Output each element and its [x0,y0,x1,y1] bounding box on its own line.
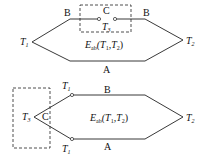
label-t2: T2 [186,112,195,124]
label-t1-bottom: T1 [62,143,71,155]
terminal-top [70,93,73,96]
diagram-1: B B C T3 T1 T2 A Eab(T1,T2) [20,5,195,75]
label-b-left: B [64,7,71,18]
label-c: C [103,5,110,16]
label-a: A [104,141,112,152]
label-t3: T3 [102,21,111,33]
label-a: A [103,64,111,75]
diagram-2: T1 T1 T3 C B A T2 Eab(T1,T2) [13,80,195,155]
terminal-left [97,17,100,20]
emf-label: Eab(T1,T2) [89,112,128,124]
terminal-right [113,17,116,20]
terminal-bottom [70,137,73,140]
label-b: B [104,84,111,95]
thermocouple-diagrams: B B C T3 T1 T2 A Eab(T1,T2) T1 T1 T3 C B… [0,0,204,161]
label-t1: T1 [20,36,29,48]
label-t1-top: T1 [62,80,71,92]
label-b-right: B [143,7,150,18]
emf-label: Eab(T1,T2) [84,39,123,51]
label-t2: T2 [186,35,195,47]
wire-b-right [115,19,183,40]
wire-c [34,95,71,139]
label-t3: T3 [22,111,31,123]
label-c: C [42,111,49,122]
